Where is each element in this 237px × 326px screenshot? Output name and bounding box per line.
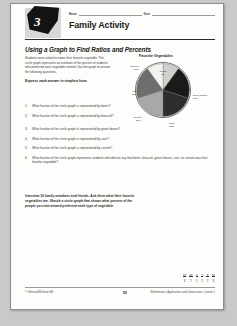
name-label: Name <box>69 13 77 16</box>
page-title: Family Activity <box>69 20 129 30</box>
question-text: What fraction of the circle graph is rep… <box>32 127 212 131</box>
answer-item: 1 20 <box>189 273 192 280</box>
answer-key: 3 20 1 4 1 5 1 5 1 20 <box>117 270 215 284</box>
question-list: 1. What fraction of the circle graph is … <box>25 104 215 170</box>
question-number: 5. <box>25 146 30 150</box>
name-input-rule[interactable] <box>79 10 142 16</box>
section-heading: Using a Graph to Find Ratios and Percent… <box>25 46 151 53</box>
footer-divider <box>25 287 215 288</box>
question-text: What fraction of the circle graph is rep… <box>32 146 212 150</box>
answer-fraction: 1 4 <box>206 273 208 280</box>
question-text: What fraction of the circle graph is rep… <box>32 114 114 118</box>
answer-item: 1 5 <box>201 273 203 280</box>
date-label: Date <box>144 13 150 16</box>
question-text: What fraction of the circle graph is rep… <box>32 137 212 141</box>
answer-item: 3 20 <box>212 273 215 280</box>
question-number: 4. <box>25 137 30 141</box>
pie-label-broccoli: broccoli 15% <box>126 65 139 71</box>
pie-label-green-beans: green beans 20% <box>193 94 217 100</box>
header-divider <box>25 39 215 40</box>
answer-fraction: 1 5 <box>201 273 203 280</box>
question-item: 2. What fraction of the circle graph is … <box>25 114 215 118</box>
pie-label-beets: beets 5% <box>155 70 171 76</box>
lesson-number: 3 <box>34 15 41 28</box>
answer-item: 3 20 <box>183 273 186 280</box>
name-date-line: Name Date <box>69 10 215 16</box>
intro-paragraph: Students were asked to name their favori… <box>25 56 111 74</box>
pie-label-corn: corn 25% <box>125 90 137 96</box>
worksheet-page: 3 Name Date Family Activity Using a Grap… <box>10 3 224 310</box>
lesson-number-badge: 3 <box>25 8 61 38</box>
answer-fraction: 1 5 <box>196 273 198 280</box>
intro-column: Students were asked to name their favori… <box>25 56 111 84</box>
answer-fraction: 3 20 <box>212 273 215 280</box>
chart-title: Favorite Vegetables <box>139 54 173 58</box>
question-text: What fraction of the circle graph is rep… <box>32 104 114 108</box>
page-inner: 3 Name Date Family Activity Using a Grap… <box>17 8 217 304</box>
question-item: 1. What fraction of the circle graph is … <box>25 104 215 108</box>
question-item: 4. What fraction of the circle graph is … <box>25 137 215 141</box>
answer-item: 1 4 <box>206 273 208 280</box>
question-number: 3. <box>25 127 30 131</box>
question-number: 2. <box>25 114 30 118</box>
question-number: 6. <box>25 156 30 165</box>
badge-shape-icon <box>27 6 59 34</box>
answer-item: 1 5 <box>196 273 198 280</box>
question-item: 3. What fraction of the circle graph is … <box>25 127 215 131</box>
question-item: 5. What fraction of the circle graph is … <box>25 146 215 150</box>
answer-fraction: 1 20 <box>189 273 192 280</box>
source-text: Mathematics: Applications and Connection… <box>145 291 215 294</box>
answer-fraction: 3 20 <box>183 273 186 280</box>
date-input-rule[interactable] <box>152 10 215 16</box>
page-header: 3 Name Date Family Activity <box>17 8 217 38</box>
question-item: 6. What fraction of the circle graph rep… <box>25 156 215 165</box>
question-number: 1. <box>25 104 30 108</box>
closing-paragraph: Interview 10 family members and friends.… <box>25 194 143 208</box>
page-footer: © Glencoe/McGraw-Hill 55 Mathematics: Ap… <box>25 291 215 295</box>
question-text: What fraction of the circle graph repres… <box>32 156 212 165</box>
page-number: 55 <box>105 291 145 295</box>
copyright-text: © Glencoe/McGraw-Hill <box>25 291 105 294</box>
instruction-text: Express each answer in simplest form. <box>25 79 111 84</box>
